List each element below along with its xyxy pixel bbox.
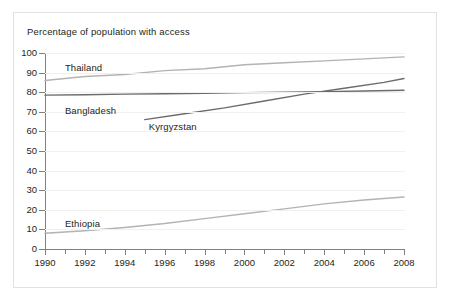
gridline bbox=[45, 92, 405, 93]
x-axis-tick-minor bbox=[344, 250, 345, 254]
y-axis-tick bbox=[39, 229, 45, 230]
x-axis-tick-label: 2002 bbox=[264, 258, 304, 268]
x-axis-tick-major bbox=[404, 250, 405, 255]
x-axis-tick-label: 2004 bbox=[304, 258, 344, 268]
x-axis-tick-major bbox=[85, 250, 86, 255]
gridline bbox=[45, 53, 405, 54]
x-axis-tick-minor bbox=[185, 250, 186, 254]
y-axis-tick bbox=[39, 131, 45, 132]
x-axis-tick-minor bbox=[145, 250, 146, 254]
x-axis-tick-minor bbox=[304, 250, 305, 254]
x-axis-tick-major bbox=[324, 250, 325, 255]
x-axis-tick-label: 1990 bbox=[25, 258, 65, 268]
x-axis-tick-label: 1998 bbox=[185, 258, 225, 268]
x-axis-tick-major bbox=[125, 250, 126, 255]
x-axis-tick-minor bbox=[65, 250, 66, 254]
x-axis-tick-minor bbox=[105, 250, 106, 254]
gridline bbox=[45, 229, 405, 230]
gridline bbox=[45, 190, 405, 191]
series-label-thailand: Thailand bbox=[65, 62, 102, 73]
gridline bbox=[45, 151, 405, 152]
series-label-bangladesh: Bangladesh bbox=[65, 105, 116, 116]
chart-figure: Percentage of population with access 010… bbox=[13, 12, 437, 288]
x-axis-tick-label: 1996 bbox=[145, 258, 185, 268]
gridline bbox=[45, 73, 405, 74]
y-axis-tick bbox=[39, 210, 45, 211]
y-axis-tick bbox=[39, 73, 45, 74]
series-label-kyrgyzstan: Kyrgyzstan bbox=[149, 121, 197, 132]
series-label-ethiopia: Ethiopia bbox=[65, 218, 100, 229]
x-axis-tick-major bbox=[364, 250, 365, 255]
x-axis-tick-minor bbox=[264, 250, 265, 254]
y-axis-tick bbox=[39, 92, 45, 93]
y-axis-tick bbox=[39, 112, 45, 113]
x-axis-tick-label: 2000 bbox=[224, 258, 264, 268]
y-axis-tick bbox=[39, 171, 45, 172]
y-axis-tick bbox=[39, 190, 45, 191]
gridline bbox=[45, 210, 405, 211]
x-axis-tick-major bbox=[165, 250, 166, 255]
x-axis-tick-label: 1992 bbox=[65, 258, 105, 268]
x-axis-tick-major bbox=[45, 250, 46, 255]
gridline bbox=[45, 131, 405, 132]
x-axis-tick-label: 2006 bbox=[344, 258, 384, 268]
gridline bbox=[45, 171, 405, 172]
x-axis-tick-label: 1994 bbox=[105, 258, 145, 268]
x-axis-tick-minor bbox=[225, 250, 226, 254]
y-axis-tick bbox=[39, 151, 45, 152]
x-axis-tick-label: 2008 bbox=[384, 258, 424, 268]
x-axis-tick-major bbox=[205, 250, 206, 255]
y-axis-tick bbox=[39, 53, 45, 54]
series-line-kyrgyzstan bbox=[145, 78, 404, 119]
x-axis-tick-major bbox=[244, 250, 245, 255]
x-axis-tick-minor bbox=[384, 250, 385, 254]
x-axis-tick-major bbox=[284, 250, 285, 255]
